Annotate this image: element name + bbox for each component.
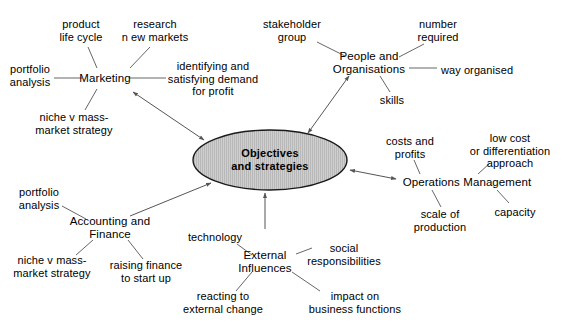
label-portfolio-analysis-marketing: portfolio analysis bbox=[10, 63, 51, 88]
edge-operations-capacity bbox=[497, 190, 509, 203]
edge-marketing-product-life-cycle bbox=[88, 47, 97, 68]
arrow-operations-to-objectives bbox=[350, 170, 396, 179]
hub-external-influences[interactable]: External Influences bbox=[238, 249, 291, 275]
label-number-required: number required bbox=[417, 18, 458, 43]
label-capacity: capacity bbox=[494, 206, 535, 219]
label-skills: skills bbox=[380, 94, 404, 107]
label-research-new-markets: research n ew markets bbox=[122, 18, 189, 43]
arrow-accounting-to-objectives bbox=[130, 183, 211, 216]
hub-accounting-and-finance[interactable]: Accounting and Finance bbox=[70, 215, 151, 241]
edge-marketing-research-new-markets bbox=[130, 47, 150, 68]
label-identifying-satisfying-demand: identifying and satisfying demand for pr… bbox=[168, 60, 258, 98]
objectives-center-label: Objectives and strategies bbox=[231, 147, 308, 173]
edge-operations-scale-of-production bbox=[432, 190, 441, 207]
label-niche-v-mass-market-finance: niche v mass- market strategy bbox=[13, 254, 90, 279]
label-low-cost-or-differentiation: low cost or differentiation approach bbox=[470, 132, 550, 170]
label-stakeholder-group: stakeholder group bbox=[263, 18, 321, 43]
hub-people-and-organisations[interactable]: People and Organisations bbox=[333, 50, 405, 76]
arrow-marketing-to-objectives bbox=[133, 92, 204, 140]
edge-accounting-raising-finance bbox=[128, 240, 143, 259]
label-way-organised: way organised bbox=[441, 64, 513, 77]
label-niche-v-mass-market-marketing: niche v mass- market strategy bbox=[35, 111, 112, 136]
edge-external-impact-business bbox=[292, 272, 320, 291]
label-costs-and-profits: costs and profits bbox=[386, 135, 434, 160]
hub-operations-management[interactable]: Operations Management bbox=[403, 176, 532, 189]
label-reacting-to-external-change: reacting to external change bbox=[183, 290, 263, 315]
label-product-life-cycle: product life cycle bbox=[59, 18, 102, 43]
label-social-responsibilities: social responsibilities bbox=[307, 242, 381, 267]
edge-operations-costs-and-profits bbox=[414, 160, 420, 174]
arrow-people-to-objectives bbox=[308, 76, 349, 133]
edge-marketing-niche-v-mass bbox=[85, 89, 97, 110]
hub-marketing[interactable]: Marketing bbox=[79, 72, 130, 85]
edge-people-skills bbox=[380, 76, 390, 92]
diagram-canvas: Objectives and strategies Marketing Peop… bbox=[0, 0, 562, 334]
label-impact-on-business-functions: impact on business functions bbox=[309, 290, 401, 315]
label-technology: technology bbox=[188, 231, 242, 244]
label-raising-finance-to-start-up: raising finance to start up bbox=[110, 259, 182, 284]
label-portfolio-analysis-finance: portfolio analysis bbox=[19, 186, 60, 211]
label-scale-of-production: scale of production bbox=[414, 208, 466, 233]
